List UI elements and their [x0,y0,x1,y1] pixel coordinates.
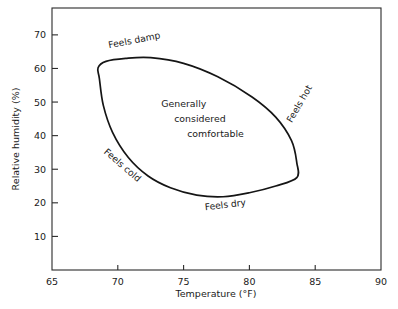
chart-background [0,0,398,309]
center-label-line: comfortable [187,128,244,139]
y-tick-label: 10 [34,231,46,242]
chart-canvas: 657075808590 10203040506070 Feels dampFe… [0,0,398,309]
x-axis-title: Temperature (°F) [175,288,257,299]
x-tick-label: 65 [46,276,58,287]
y-tick-label: 50 [34,97,46,108]
y-tick-label: 30 [34,164,46,175]
x-tick-label: 85 [309,276,321,287]
comfort-zone-chart: 657075808590 10203040506070 Feels dampFe… [0,0,398,309]
y-axis-title: Relative humidity (%) [10,88,21,191]
y-tick-label: 40 [34,130,46,141]
center-label-line: considered [174,113,225,124]
x-tick-label: 90 [375,276,387,287]
x-tick-label: 75 [178,276,190,287]
y-tick-label: 20 [34,197,46,208]
x-tick-label: 70 [112,276,124,287]
center-label-line: Generally [161,98,207,109]
y-tick-label: 60 [34,63,46,74]
x-tick-label: 80 [243,276,255,287]
y-tick-label: 70 [34,29,46,40]
